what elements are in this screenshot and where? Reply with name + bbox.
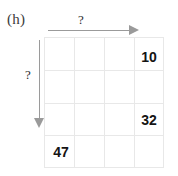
grid-cell-value: 10 (134, 50, 164, 64)
grid-line-horizontal (44, 37, 164, 38)
horizontal-unknown-label: ? (78, 13, 84, 26)
number-grid-figure: (h) ? ? 10 32 47 (0, 0, 178, 176)
grid-line-horizontal (44, 135, 164, 136)
arrow-right-icon-shaft (48, 30, 132, 31)
grid-line-horizontal (44, 103, 164, 104)
part-label: (h) (7, 11, 25, 28)
grid-cell-value: 32 (134, 113, 164, 127)
arrow-down-icon (34, 118, 44, 128)
grid-line-horizontal (44, 167, 164, 168)
vertical-unknown-label: ? (25, 68, 31, 81)
grid-line-horizontal (44, 70, 164, 71)
arrow-down-icon-shaft (39, 40, 40, 120)
grid-cell-value: 47 (46, 145, 76, 159)
arrow-right-icon (129, 25, 139, 35)
grid: 10 32 47 (44, 37, 164, 168)
